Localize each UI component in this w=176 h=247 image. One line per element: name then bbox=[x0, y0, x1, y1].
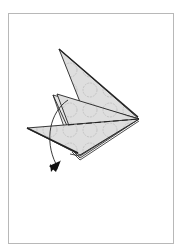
left-tail-flap bbox=[27, 119, 139, 155]
origami-diagram bbox=[0, 0, 176, 247]
